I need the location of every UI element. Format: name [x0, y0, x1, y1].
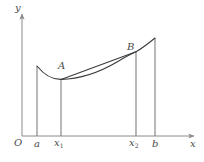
x-tick-label-x1: x1: [54, 138, 64, 149]
convex-curve-figure: y x O a x1 x2 b A B: [0, 0, 204, 162]
x-tick-label-a: a: [34, 139, 40, 149]
chord-AB: [61, 52, 136, 80]
curve-group: [37, 38, 155, 79]
x-tick-subscript-1: 1: [60, 142, 64, 149]
drop-lines-group: [37, 38, 155, 136]
axes-group: [22, 14, 194, 136]
x-tick-subscript-2: 2: [135, 142, 139, 149]
figure-canvas: [0, 0, 204, 162]
point-label-A: A: [58, 61, 65, 71]
origin-label: O: [14, 138, 22, 148]
point-label-B: B: [127, 42, 134, 52]
convex-curve: [37, 38, 155, 79]
x-tick-label-x2: x2: [129, 138, 139, 149]
x-tick-label-b: b: [152, 139, 158, 149]
chord-group: [61, 52, 136, 80]
y-axis-label: y: [15, 3, 21, 13]
x-axis-label: x: [190, 139, 196, 149]
